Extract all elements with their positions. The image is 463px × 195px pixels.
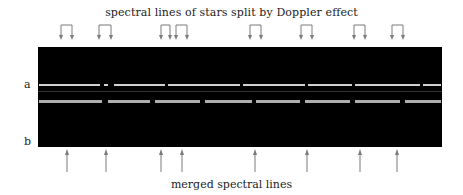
arrow-down-icon	[109, 35, 113, 40]
arrow-down-icon	[97, 35, 101, 40]
arrow-down-icon	[310, 35, 314, 40]
arrow-down-icon	[248, 35, 252, 40]
split-bracket	[392, 25, 403, 36]
arrow-down-icon	[299, 35, 303, 40]
spectrum-a-faint-line	[38, 91, 442, 92]
spectrum-a-segment	[114, 84, 165, 86]
spectrum-a-segment	[355, 84, 420, 86]
diagram-footer: merged spectral lines	[0, 178, 463, 191]
split-bracket	[161, 25, 170, 36]
arrow-down-icon	[363, 35, 367, 40]
spectrum-a-segment	[168, 84, 240, 86]
spectrum-b-segment	[305, 100, 350, 103]
spectrum-b-segment	[405, 100, 441, 103]
spectrum-a-segment	[423, 84, 441, 86]
arrow-down-icon	[59, 35, 63, 40]
arrow-down-icon	[174, 35, 178, 40]
spectrum-b-segment	[39, 100, 102, 103]
arrow-up-icon	[65, 149, 69, 155]
arrow-up-icon	[104, 149, 108, 155]
arrow-up-icon	[159, 149, 163, 155]
arrow-up-icon	[358, 149, 362, 155]
arrow-up-icon	[395, 149, 399, 155]
spectrum-a-segment	[243, 84, 305, 86]
split-bracket	[61, 25, 72, 36]
spectrum-b-segment	[256, 100, 300, 103]
spectrum-b-segment	[205, 100, 252, 103]
arrow-up-icon	[253, 149, 257, 155]
spectrum-b-segment	[155, 100, 200, 103]
split-bracket	[354, 25, 365, 36]
arrow-down-icon	[70, 35, 74, 40]
arrow-down-icon	[352, 35, 356, 40]
arrow-down-icon	[390, 35, 394, 40]
arrow-down-icon	[185, 35, 189, 40]
arrow-down-icon	[259, 35, 263, 40]
spectrum-b-segment	[108, 100, 150, 103]
arrow-down-icon	[168, 35, 172, 40]
arrows-overlay	[0, 0, 463, 195]
arrow-up-icon	[180, 149, 184, 155]
split-bracket	[99, 25, 111, 36]
spectrum-a-segment	[39, 84, 100, 86]
arrow-down-icon	[159, 35, 163, 40]
label-a: a	[24, 78, 31, 91]
split-bracket	[301, 25, 312, 36]
spectrum-b-segment	[355, 100, 400, 103]
spectrum-a-segment	[308, 84, 352, 86]
label-b: b	[24, 135, 31, 148]
split-bracket	[250, 25, 261, 36]
arrow-down-icon	[401, 35, 405, 40]
arrow-up-icon	[305, 149, 309, 155]
spectrum-a-segment	[104, 84, 108, 86]
split-bracket	[176, 25, 187, 36]
